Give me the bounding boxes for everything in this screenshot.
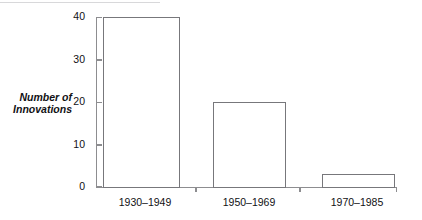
y-tick-label-40: 40 — [73, 10, 85, 22]
bar-1930-1949 — [104, 18, 180, 188]
x-tick-label-1970-1985: 1970–1985 — [331, 196, 384, 208]
y-tick-label-0: 0 — [79, 180, 85, 192]
x-tick-label-1950-1969: 1950–1969 — [223, 196, 276, 208]
y-tick-label-20: 20 — [73, 95, 85, 107]
bar-1970-1985 — [323, 175, 395, 188]
bar-1950-1969 — [214, 103, 286, 188]
y-tick-label-30: 30 — [73, 53, 85, 65]
bar-chart-figure: Number of Innovations 40 30 20 10 0 1930… — [0, 0, 422, 220]
y-tick-label-10: 10 — [73, 138, 85, 150]
x-tick-label-1930-1949: 1930–1949 — [119, 196, 172, 208]
chart-plot-area: Number of Innovations 40 30 20 10 0 1930… — [0, 0, 422, 220]
y-axis-label-line-2: Innovations — [13, 103, 72, 115]
y-axis-label-line-1: Number of — [20, 91, 74, 103]
